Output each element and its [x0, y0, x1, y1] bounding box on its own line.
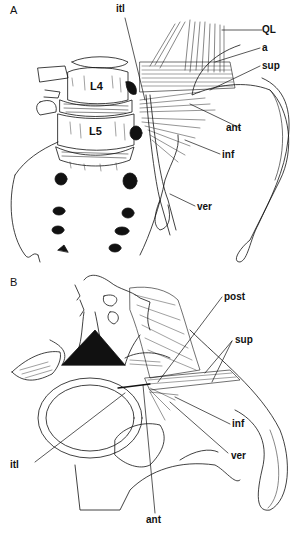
label-inf-a: inf [222, 150, 234, 160]
label-sup-a: sup [262, 61, 280, 71]
label-inf-b: inf [232, 419, 244, 429]
label-ant-a: ant [226, 123, 241, 133]
label-post: post [224, 292, 245, 302]
label-itl-a: itl [116, 4, 125, 14]
label-sup-b: sup [235, 335, 253, 345]
label-ant-b: ant [146, 515, 161, 525]
label-ver-b: ver [231, 451, 246, 461]
panel-b-leader-lines [35, 297, 232, 513]
panel-b-drawing [12, 275, 287, 510]
label-ver-a: ver [197, 202, 212, 212]
label-a: a [262, 43, 268, 53]
panel-a-label: A [10, 4, 17, 16]
panel-b-label: B [10, 276, 17, 288]
label-ql: QL [262, 25, 276, 35]
vertebra-l5-label: L5 [89, 125, 102, 137]
label-itl-b: itl [10, 460, 19, 470]
vertebra-l4-label: L4 [90, 80, 103, 92]
anatomy-diagram [0, 0, 297, 534]
panel-a-drawing [11, 20, 289, 262]
